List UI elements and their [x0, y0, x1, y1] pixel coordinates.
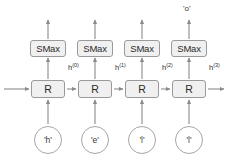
recurrent-box-1: R	[78, 80, 112, 98]
recurrent-box-0: R	[31, 80, 65, 98]
input-node-3: 'l'	[175, 126, 203, 154]
input-node-0: 'h'	[34, 126, 62, 154]
hidden-state-sup-3: (3)	[213, 62, 220, 68]
recurrent-label-1: R	[91, 84, 99, 95]
hidden-state-sup-1: (1)	[119, 62, 126, 68]
softmax-box-0: SMax	[30, 40, 66, 57]
rnn-diagram: SMax SMax SMax SMax R R R R h(0) h(1) h(…	[0, 0, 230, 165]
input-label-3: 'l'	[186, 136, 191, 145]
input-node-1: 'e'	[81, 126, 109, 154]
recurrent-label-3: R	[185, 84, 193, 95]
hidden-state-sup-0: (0)	[72, 62, 79, 68]
softmax-label-1: SMax	[83, 44, 106, 54]
softmax-label-3: SMax	[177, 44, 200, 54]
softmax-box-2: SMax	[124, 40, 160, 57]
input-node-2: 'l'	[128, 126, 156, 154]
recurrent-box-3: R	[172, 80, 206, 98]
hidden-state-label-0: h(0)	[68, 64, 79, 72]
hidden-state-sup-2: (2)	[166, 62, 173, 68]
hidden-state-label-3: h(3)	[209, 64, 220, 72]
input-label-0: 'h'	[44, 136, 52, 145]
recurrent-box-2: R	[125, 80, 159, 98]
hidden-state-label-2: h(2)	[162, 64, 173, 72]
hidden-state-label-1: h(1)	[115, 64, 126, 72]
softmax-box-1: SMax	[77, 40, 113, 57]
recurrent-label-2: R	[138, 84, 146, 95]
softmax-label-2: SMax	[130, 44, 153, 54]
softmax-label-0: SMax	[36, 44, 59, 54]
input-label-1: 'e'	[91, 136, 99, 145]
recurrent-label-0: R	[44, 84, 52, 95]
input-label-2: 'l'	[139, 136, 144, 145]
final-output-label: 'o'	[183, 5, 191, 13]
softmax-box-3: SMax	[171, 40, 207, 57]
